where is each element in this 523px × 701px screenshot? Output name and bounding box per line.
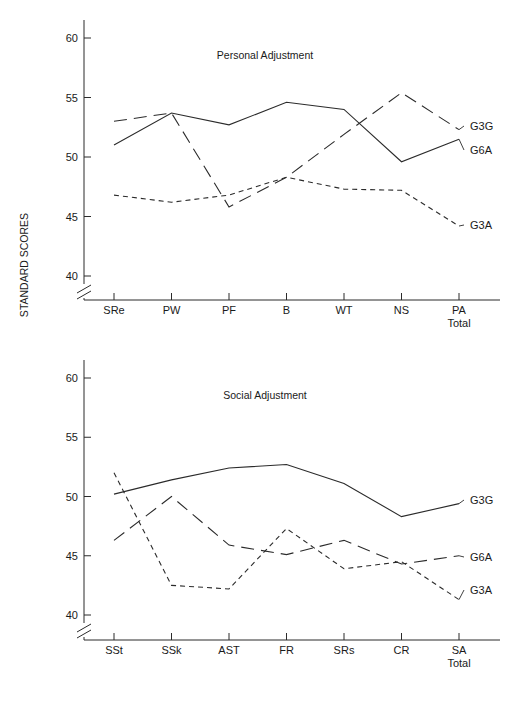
chart-title-1: Personal Adjustment	[217, 49, 313, 61]
x-tick-sublabel: Total	[447, 657, 470, 669]
y-tick-label: 50	[66, 491, 78, 503]
series-label-G3G: G3G	[470, 120, 493, 132]
dual-line-chart: 4045505560SRePWPFBWTNSPATotalPersonal Ad…	[0, 0, 523, 701]
x-tick-label: SSk	[161, 644, 182, 656]
y-tick-label: 45	[66, 550, 78, 562]
x-tick-label: SSt	[105, 644, 123, 656]
series-label-G3A: G3A	[470, 584, 493, 596]
x-tick-label: SRe	[103, 304, 124, 316]
series-leader-G6A	[459, 556, 464, 557]
x-tick-label: FR	[279, 644, 294, 656]
x-tick-label: WT	[335, 304, 352, 316]
series-leader-G3G	[459, 126, 464, 130]
chart-panel-1: 4045505560SRePWPFBWTNSPATotalPersonal Ad…	[66, 20, 500, 329]
series-line-G6A	[114, 497, 459, 565]
series-leader-G3A	[459, 590, 464, 600]
series-line-G3G	[114, 93, 459, 207]
x-tick-label: CR	[394, 644, 410, 656]
x-tick-label: B	[283, 304, 290, 316]
series-label-G6A: G6A	[470, 144, 493, 156]
series-line-G3G	[114, 465, 459, 517]
series-label-G3A: G3A	[470, 219, 493, 231]
y-tick-label: 60	[66, 372, 78, 384]
x-tick-sublabel: Total	[447, 317, 470, 329]
y-tick-label: 60	[66, 32, 78, 44]
series-leader-G3A	[459, 225, 464, 226]
x-tick-label: PF	[222, 304, 236, 316]
series-line-G6A	[114, 102, 459, 161]
y-tick-label: 55	[66, 92, 78, 104]
x-tick-label: PA	[452, 304, 467, 316]
y-tick-label: 40	[66, 609, 78, 621]
x-tick-label: PW	[163, 304, 181, 316]
y-axis-title: STANDARD SCORES	[18, 213, 30, 317]
y-tick-label: 40	[66, 270, 78, 282]
series-leader-G3G	[459, 500, 464, 504]
series-line-G3A	[114, 177, 459, 226]
series-leader-G6A	[459, 139, 464, 150]
series-label-G6A: G6A	[470, 551, 493, 563]
chart-panel-2: 4045505560SStSSkASTFRSRsCRSATotalSocial …	[66, 360, 500, 669]
y-tick-label: 55	[66, 431, 78, 443]
y-tick-label: 50	[66, 151, 78, 163]
x-tick-label: NS	[394, 304, 409, 316]
figure-container: 4045505560SRePWPFBWTNSPATotalPersonal Ad…	[0, 0, 523, 701]
series-label-G3G: G3G	[470, 494, 493, 506]
x-tick-label: SRs	[334, 644, 355, 656]
x-tick-label: AST	[218, 644, 240, 656]
chart-title-2: Social Adjustment	[223, 389, 307, 401]
x-tick-label: SA	[452, 644, 467, 656]
series-line-G3A	[114, 473, 459, 600]
y-tick-label: 45	[66, 211, 78, 223]
